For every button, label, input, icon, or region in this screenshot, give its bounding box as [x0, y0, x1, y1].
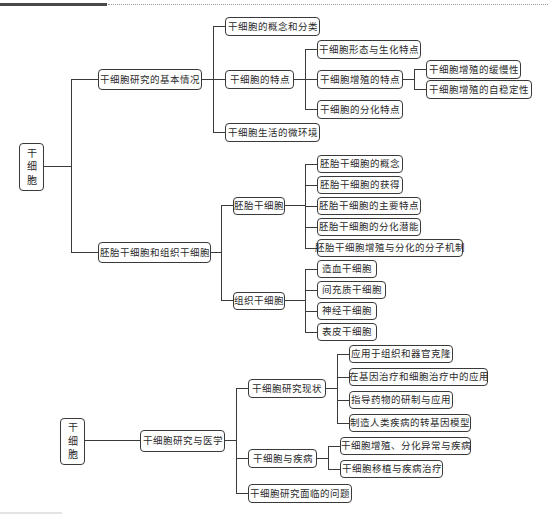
node-label: 表皮干细胞: [322, 327, 372, 337]
connector: [236, 458, 248, 459]
node-esc-concept: 胚胎干细胞的概念: [317, 155, 403, 173]
connector: [305, 164, 317, 165]
connector: [236, 493, 248, 494]
node-label: 组织干细胞: [234, 296, 284, 306]
root-char: 干: [27, 147, 37, 161]
connector: [305, 206, 317, 207]
connector: [305, 332, 317, 333]
node-label: 在基因治疗和细胞治疗中的应用: [349, 372, 489, 382]
node-label: 神经干细胞: [322, 306, 372, 316]
root-char: 干: [68, 421, 78, 435]
connector: [213, 132, 225, 133]
connector: [337, 354, 338, 423]
connector: [285, 205, 306, 206]
node-label: 指导药物的研制与应用: [351, 395, 451, 405]
footer-rule: [0, 512, 62, 514]
node-neural: 神经干细胞: [317, 302, 377, 320]
node-label: 干细胞研究的基本情况: [100, 75, 200, 85]
node-organ-cloning: 应用于组织和器官克隆: [349, 345, 453, 363]
node-embryonic-stem-cell: 胚胎干细胞: [233, 197, 285, 215]
node-label: 干细胞增殖的缓慢性: [429, 65, 519, 75]
node-differentiation: 干细胞的分化特点: [317, 100, 403, 119]
connector: [305, 185, 317, 186]
connector: [337, 423, 349, 424]
node-epidermal: 表皮干细胞: [317, 323, 377, 341]
node-concept-classification: 干细胞的概念和分类: [225, 17, 320, 36]
node-label: 胚胎干细胞: [234, 201, 284, 211]
connector: [213, 79, 225, 80]
node-label: 胚胎干细胞增殖与分化的分子机制: [315, 243, 465, 253]
node-label: 干细胞增殖的特点: [320, 75, 400, 85]
connector: [305, 269, 306, 332]
node-disease: 干细胞与疾病: [248, 449, 317, 468]
connector: [71, 252, 98, 253]
connector: [328, 469, 340, 470]
node-label: 胚胎干细胞的概念: [320, 159, 400, 169]
root-node-stem-cell-2: 干 细 胞: [60, 418, 85, 465]
connector: [305, 109, 317, 110]
connector: [44, 166, 71, 167]
connector: [305, 290, 317, 291]
connector: [337, 400, 349, 401]
connector: [305, 79, 317, 80]
node-tissue-stem-cell: 组织干细胞: [233, 292, 285, 310]
node-label: 干细胞研究现状: [252, 384, 322, 394]
node-label: 胚胎干细胞和组织干细胞: [100, 248, 210, 258]
node-label: 胚胎干细胞的分化潜能: [319, 222, 419, 232]
connector: [221, 205, 233, 206]
connector: [221, 205, 222, 301]
node-esc-derivation: 胚胎干细胞的获得: [317, 176, 403, 194]
node-label: 干细胞的特点: [230, 75, 290, 85]
node-drug-development: 指导药物的研制与应用: [349, 391, 453, 409]
connector: [285, 300, 306, 301]
connector: [236, 388, 237, 493]
node-label: 胚胎干细胞的主要特点: [319, 201, 419, 211]
connector: [305, 311, 317, 312]
node-gene-cell-therapy: 在基因治疗和细胞治疗中的应用: [349, 368, 488, 386]
node-slow-proliferation: 干细胞增殖的缓慢性: [426, 60, 521, 79]
header-dotted-rule: [108, 4, 548, 5]
node-morphology: 干细胞形态与生化特点: [317, 40, 421, 59]
connector: [305, 227, 317, 228]
node-label: 干细胞增殖、分化异常与疾病: [341, 441, 471, 451]
root-char: 胞: [27, 174, 37, 188]
connector: [236, 388, 248, 389]
connector: [414, 89, 426, 90]
node-esc-potency: 胚胎干细胞的分化潜能: [317, 218, 421, 236]
node-label: 干细胞生活的微环境: [228, 128, 318, 138]
connector: [305, 269, 317, 270]
node-embryonic-and-tissue: 胚胎干细胞和组织干细胞: [98, 242, 211, 263]
node-label: 干细胞研究与医学: [143, 436, 223, 446]
node-label: 应用于组织和器官克隆: [351, 349, 451, 359]
node-label: 干细胞增殖的自稳定性: [429, 85, 529, 95]
node-research-and-medicine: 干细胞研究与医学: [140, 430, 225, 452]
connector: [305, 49, 317, 50]
connector: [414, 69, 426, 70]
connector: [213, 26, 225, 27]
node-mesenchymal: 间充质干细胞: [317, 281, 386, 299]
node-transgenic-model: 制造人类疾病的转基因模型: [349, 414, 471, 432]
node-transplant-therapy: 干细胞移植与疾病治疗: [340, 460, 443, 478]
node-label: 干细胞与疾病: [253, 454, 313, 464]
node-label: 造血干细胞: [322, 264, 372, 274]
connector: [328, 446, 329, 469]
node-label: 间充质干细胞: [322, 285, 382, 295]
root-char: 细: [27, 160, 37, 174]
root-char: 胞: [68, 448, 78, 462]
node-microenvironment: 干细胞生活的微环境: [225, 123, 320, 142]
node-label: 制造人类疾病的转基因模型: [350, 418, 470, 428]
node-label: 干细胞移植与疾病治疗: [342, 464, 442, 474]
connector: [414, 69, 415, 90]
node-esc-molecular-mechanism: 胚胎干细胞增殖与分化的分子机制: [317, 239, 463, 257]
node-basic-situation: 干细胞研究的基本情况: [98, 69, 202, 90]
node-esc-main-features: 胚胎干细胞的主要特点: [317, 197, 421, 215]
connector: [85, 440, 140, 441]
node-label: 干细胞研究面临的问题: [250, 489, 350, 499]
node-hematopoietic: 造血干细胞: [317, 260, 377, 278]
node-label: 干细胞的分化特点: [320, 105, 400, 115]
node-label: 干细胞形态与生化特点: [319, 45, 419, 55]
node-abnormal-proliferation: 干细胞增殖、分化异常与疾病: [340, 437, 471, 455]
root-char: 细: [68, 435, 78, 449]
node-proliferation: 干细胞增殖的特点: [317, 70, 403, 89]
connector: [221, 300, 233, 301]
